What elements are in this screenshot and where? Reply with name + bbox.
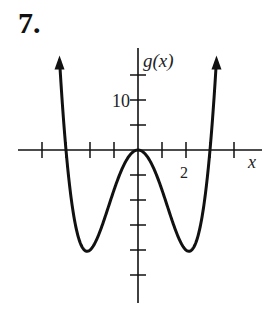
svg-text:10: 10 xyxy=(112,91,130,111)
svg-text:g(x): g(x) xyxy=(143,50,174,72)
function-graph: g(x)102x xyxy=(0,0,267,314)
axis-labels: g(x)102x xyxy=(112,50,256,181)
svg-text:x: x xyxy=(247,152,256,172)
svg-text:2: 2 xyxy=(180,164,188,181)
axes xyxy=(18,48,262,303)
